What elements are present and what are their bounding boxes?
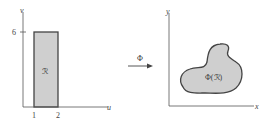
region-phi-r-label: Φ(ℛ) (205, 73, 223, 82)
mapping-arrow: Φ (128, 54, 153, 69)
x-axis-label: x (254, 102, 259, 111)
phi-label: Φ (137, 54, 143, 63)
left-plot: v 6 u 1 2 ℛ (12, 6, 111, 120)
region-phi-r (181, 44, 242, 93)
u-axis-label: u (107, 103, 111, 112)
transformation-diagram: v 6 u 1 2 ℛ Φ y x Φ(ℛ) (0, 0, 264, 124)
y-tick-label-6: 6 (12, 28, 16, 37)
y-axis-label: y (165, 7, 170, 16)
arrowhead-icon (147, 64, 153, 69)
right-plot: y x Φ(ℛ) (165, 7, 259, 111)
x-tick-label-1: 1 (32, 111, 36, 120)
x-tick-label-2: 2 (56, 111, 60, 120)
v-axis-label: v (20, 6, 24, 15)
region-r-label: ℛ (42, 67, 49, 76)
